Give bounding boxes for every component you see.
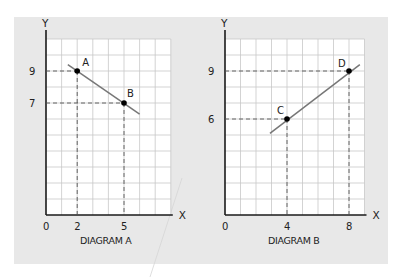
x-tick-label: 2	[74, 221, 80, 232]
data-point-a	[74, 68, 80, 74]
diagram-b: YX09648CDDIAGRAM B	[208, 17, 380, 246]
y-tick-label: 7	[29, 98, 35, 109]
origin-label: 0	[222, 221, 228, 232]
diagram-title: DIAGRAM A	[80, 235, 132, 246]
x-tick-label: 8	[346, 221, 352, 232]
y-axis-label: Y	[41, 17, 49, 29]
origin-label: 0	[43, 221, 49, 232]
point-label-c: C	[277, 105, 284, 116]
y-tick-label: 9	[29, 66, 35, 77]
y-tick-label: 9	[208, 66, 214, 77]
x-tick-label: 4	[284, 221, 290, 232]
point-label-a: A	[82, 57, 89, 68]
figure-canvas: YX09725ABDIAGRAM A YX09648CDDIAGRAM B	[0, 0, 396, 278]
diagram-a: YX09725ABDIAGRAM A	[29, 17, 186, 246]
y-tick-label: 6	[208, 114, 214, 125]
point-label-b: B	[127, 88, 134, 99]
x-axis-label: X	[373, 209, 380, 221]
data-point-d	[346, 68, 352, 74]
point-label-d: D	[338, 58, 346, 69]
diagram-title: DIAGRAM B	[268, 235, 320, 246]
x-tick-label: 5	[121, 221, 127, 232]
data-point-b	[121, 100, 127, 106]
y-axis-label: Y	[220, 17, 228, 29]
data-point-c	[284, 116, 290, 122]
x-axis-label: X	[179, 209, 186, 221]
